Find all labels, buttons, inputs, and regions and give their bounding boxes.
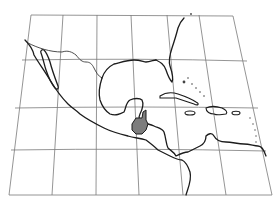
bahamas-island [187, 77, 189, 79]
meridian-line [131, 15, 139, 195]
cuba-island [160, 93, 198, 105]
puerto-rico-island [232, 111, 240, 115]
graticule [9, 15, 272, 195]
lesser-antilles-island [254, 129, 255, 130]
meridian-line [96, 15, 97, 195]
bahamas-island [191, 83, 193, 85]
parallel-line [11, 149, 266, 151]
meridian-line [52, 15, 63, 195]
mexico-gulf-coast [99, 78, 143, 122]
us-gulf-coast [102, 60, 156, 78]
us-mexico-border [28, 43, 102, 78]
map-frame [9, 15, 272, 195]
meridian-line [199, 15, 226, 195]
map-canvas [0, 0, 275, 205]
bahamas-island [203, 95, 205, 97]
lesser-antilles-island [255, 135, 256, 136]
meridian-line [167, 15, 183, 195]
bahamas-island [183, 81, 186, 84]
bahamas-island [195, 87, 197, 89]
lesser-antilles-island [249, 117, 250, 118]
lesser-antilles-island [252, 123, 253, 124]
locator-map: Locator map: Central America and the Car… [0, 0, 275, 205]
bahamas-island [199, 91, 201, 93]
bermuda-island [190, 13, 192, 15]
lesser-antilles-island [255, 141, 256, 142]
jamaica-island [185, 111, 195, 115]
